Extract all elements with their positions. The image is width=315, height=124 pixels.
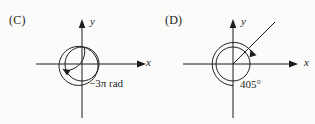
x-axis-d bbox=[183, 61, 298, 68]
x-axis-c bbox=[36, 61, 146, 68]
y-axis-label-d: y bbox=[241, 15, 246, 27]
x-axis-label-c: x bbox=[146, 56, 151, 68]
panel-d-diagram bbox=[157, 0, 315, 124]
x-axis-label-d: x bbox=[304, 56, 309, 68]
angle-measure-label-c: −3π rad bbox=[89, 77, 123, 89]
y-axis-c bbox=[79, 19, 86, 118]
angle-arrowhead-d bbox=[250, 50, 257, 58]
angle-measure-label-d: 405° bbox=[240, 78, 261, 90]
panel-d: (D) y x 405° bbox=[157, 0, 315, 124]
panel-c: (C) y x −3π rad bbox=[0, 0, 157, 124]
figure-root: (C) y x −3π rad (D) bbox=[0, 0, 315, 124]
y-axis-label-c: y bbox=[90, 15, 95, 27]
panel-c-diagram bbox=[0, 0, 157, 124]
y-axis-d bbox=[230, 19, 237, 118]
